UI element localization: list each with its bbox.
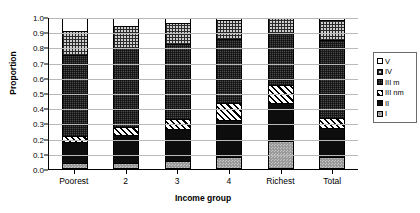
legend-item[interactable]: III m (377, 77, 414, 88)
gridline (49, 79, 358, 80)
x-tick-mark (177, 170, 178, 174)
bar-segment (63, 164, 87, 168)
bar-segment (63, 32, 87, 56)
bar-segment (269, 19, 293, 34)
bar-segment (166, 162, 190, 168)
bar-segment (217, 21, 241, 40)
bar-segment (320, 158, 344, 168)
legend-item-label: III m (385, 79, 400, 87)
x-tick-mark (281, 170, 282, 174)
legend: VIVIII mIII nmIII (373, 52, 417, 123)
x-axis-labels: Poorest234RichestTotal (48, 176, 358, 186)
x-tick-label: Poorest (48, 176, 100, 186)
y-tick-label: 0.0 (33, 166, 44, 175)
x-tick-label: 2 (100, 176, 152, 186)
x-axis-title: Income group (48, 193, 358, 203)
legend-item[interactable]: I (377, 109, 414, 120)
gridline (49, 124, 358, 125)
bar-segment (114, 164, 138, 168)
legend-item-label: II (385, 100, 389, 108)
gridline (49, 64, 358, 65)
swatch-diagonal-hatch-icon (377, 90, 383, 96)
legend-item-label: V (385, 58, 390, 66)
bar-segment (114, 19, 138, 27)
legend-item-label: IV (385, 68, 392, 76)
bar-segment (217, 158, 241, 168)
legend-item[interactable]: II (377, 98, 414, 109)
plot-area (48, 18, 358, 170)
y-tick-label: 0.6 (33, 74, 44, 83)
y-axis-ticks: 0.00.10.20.30.40.50.60.70.80.91.0 (20, 18, 48, 170)
legend-item-label: I (385, 110, 387, 118)
gridline (49, 48, 358, 49)
x-tick-mark (229, 170, 230, 174)
legend-item[interactable]: IV (377, 67, 414, 78)
swatch-white-plain-icon (377, 58, 383, 64)
y-tick-label: 1.0 (33, 14, 44, 23)
y-tick-label: 0.2 (33, 135, 44, 144)
x-tick-label: 4 (203, 176, 255, 186)
y-tick-label: 0.9 (33, 29, 44, 38)
legend-item[interactable]: III nm (377, 88, 414, 99)
gridline (49, 155, 358, 156)
y-tick-label: 0.8 (33, 44, 44, 53)
x-tick-mark (126, 170, 127, 174)
bar-segment (114, 128, 138, 136)
x-tick-label: Total (306, 176, 358, 186)
bar-segment (320, 21, 344, 40)
gridline (49, 109, 358, 110)
bar-segment (114, 27, 138, 49)
x-tick-mark (74, 170, 75, 174)
legend-item-label: III nm (385, 89, 404, 97)
swatch-gray-checker-icon (377, 111, 383, 117)
swatch-solid-black-icon (377, 100, 383, 106)
gridline (49, 18, 358, 19)
y-tick-label: 0.1 (33, 150, 44, 159)
gridline (49, 94, 358, 95)
gridline (49, 33, 358, 34)
swatch-dark-grid-icon (377, 79, 383, 85)
y-axis-title: Proportion (8, 33, 18, 113)
bar-segment (166, 130, 190, 162)
stacked-bar-chart: Proportion 0.00.10.20.30.40.50.60.70.80.… (0, 0, 420, 213)
bar-segment (114, 49, 138, 128)
bar-segment (63, 19, 87, 32)
y-tick-label: 0.4 (33, 105, 44, 114)
gridline (49, 140, 358, 141)
x-tick-label: 3 (151, 176, 203, 186)
legend-item[interactable]: V (377, 56, 414, 67)
y-tick-label: 0.7 (33, 59, 44, 68)
x-tick-label: Richest (255, 176, 307, 186)
bar-segment (217, 104, 241, 121)
y-tick-label: 0.3 (33, 120, 44, 129)
x-tick-mark (332, 170, 333, 174)
swatch-fine-grid-icon (377, 69, 383, 75)
y-tick-label: 0.5 (33, 90, 44, 99)
bar-segment (269, 86, 293, 104)
bar-segment (166, 24, 190, 45)
